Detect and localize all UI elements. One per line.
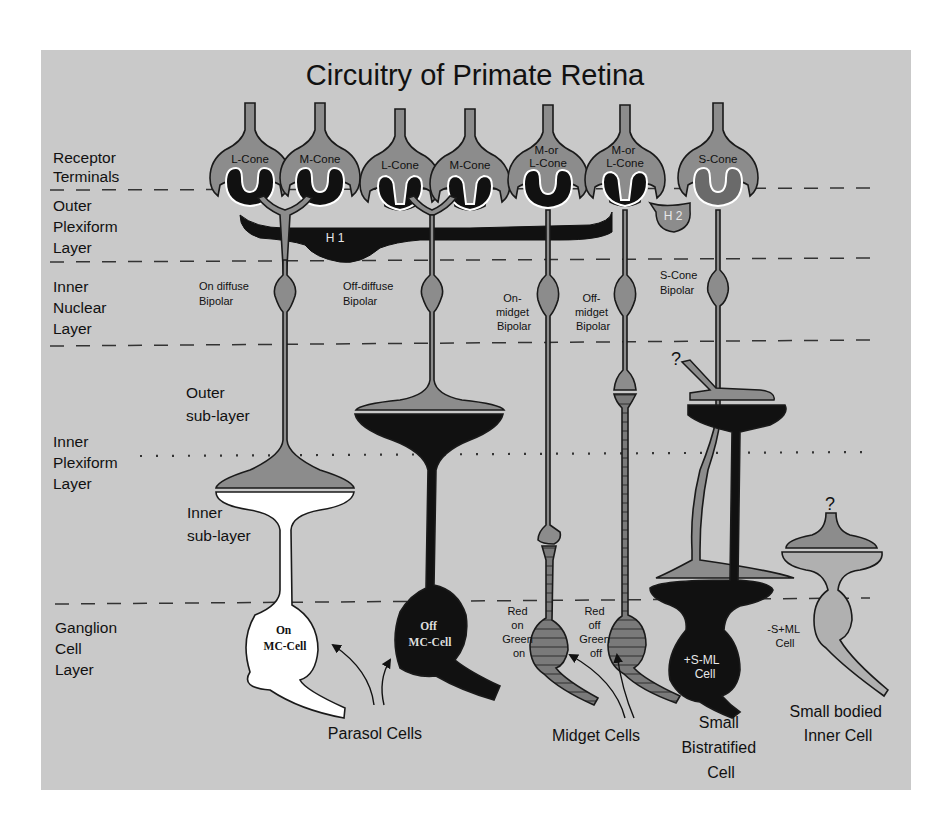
cone-l-2: L-Cone: [360, 109, 440, 210]
cone-label: L-Cone: [381, 159, 419, 171]
arrow-to-on-mc: [333, 645, 374, 705]
cone-m-2: M-Cone: [430, 109, 510, 210]
cone-label: S-Cone: [699, 153, 738, 165]
layer-label-inner-plexiform: Inner Plexiform Layer: [53, 433, 122, 492]
cone-m-1: M-Cone: [280, 103, 360, 206]
retina-circuit-diagram: Circuitry of Primate Retina Receptor Ter…: [0, 0, 948, 819]
boundary-opl-inl: [50, 258, 870, 262]
h1-horizontal-cell: H 1: [240, 212, 612, 262]
ganglion-small-bodied-inner: -S+ML Cell: [767, 513, 888, 696]
bipolar-label-off-diffuse: Off-diffuse Bipolar: [343, 280, 396, 307]
layer-label-inner-nuclear: Inner Nuclear Layer: [53, 278, 111, 337]
ganglion-label-minus-s-plus-ml: -S+ML Cell: [767, 623, 802, 649]
h2-horizontal-cell: H 2: [650, 203, 690, 232]
layer-label-ganglion-cell: Ganglion Cell Layer: [55, 619, 121, 678]
cone-s: S-Cone: [678, 103, 758, 206]
bipolar-label-off-midget: Off- midget Bipolar: [575, 292, 611, 332]
unknown-marker-1: ?: [671, 349, 681, 369]
cone-ml-2: M-or L-Cone: [585, 105, 665, 206]
h1-label: H 1: [326, 231, 345, 245]
group-label-parasol: Parasol Cells: [328, 725, 422, 742]
cone-terminals: L-Cone M-Cone L-Cone M-Cone M-or L-Cone: [210, 103, 758, 210]
cone-label: M-or L-Cone: [606, 144, 644, 169]
layer-labels: Receptor Terminals Outer Plexiform Layer…: [53, 149, 251, 678]
group-label-midget: Midget Cells: [552, 727, 640, 744]
cone-label: L-Cone: [231, 153, 269, 165]
cone-l-1: L-Cone: [210, 103, 290, 206]
bipolar-label-s-cone: S-Cone Bipolar: [660, 269, 700, 296]
group-label-small-bodied-inner: Small bodied Inner Cell: [790, 703, 887, 744]
sublayer-label-outer: Outer sub-layer: [186, 384, 250, 424]
cone-label: M-Cone: [450, 159, 491, 171]
unknown-marker-2: ?: [825, 494, 835, 514]
s-cone-bipolar-terminal: [682, 360, 774, 400]
sublayer-label-inner: Inner sub-layer: [187, 504, 251, 544]
h2-label: H 2: [664, 209, 683, 223]
group-label-small-bistratified: Small Bistratified Cell: [681, 714, 760, 781]
diagram-title: Circuitry of Primate Retina: [306, 59, 645, 91]
bipolar-label-on-diffuse: On diffuse Bipolar: [199, 280, 252, 307]
bipolar-label-on-midget: On- midget Bipolar: [496, 292, 532, 332]
ganglion-red-on-green-on: Red on Green on: [502, 546, 598, 705]
ganglion-cells: On MC-Cell Off MC-Cell Red on Green on: [216, 394, 888, 718]
cone-label: M-or L-Cone: [529, 144, 567, 169]
ganglion-on-mc: On MC-Cell: [216, 492, 354, 718]
arrow-to-off-mc: [382, 660, 390, 705]
ganglion-off-mc: Off MC-Cell: [355, 414, 503, 700]
cone-label: M-Cone: [300, 153, 341, 165]
layer-label-outer-plexiform: Outer Plexiform Layer: [53, 197, 122, 256]
ganglion-red-off-green-off: Red off Green off: [579, 394, 680, 703]
layer-label-receptor-terminals: Receptor Terminals: [53, 149, 120, 185]
cone-ml-1: M-or L-Cone: [508, 105, 588, 208]
boundary-inl-ipl: [50, 340, 870, 346]
boundary-ipl-sublayers: [140, 452, 870, 456]
cell-group-labels: Parasol Cells Midget Cells Small Bistrat…: [328, 703, 887, 781]
